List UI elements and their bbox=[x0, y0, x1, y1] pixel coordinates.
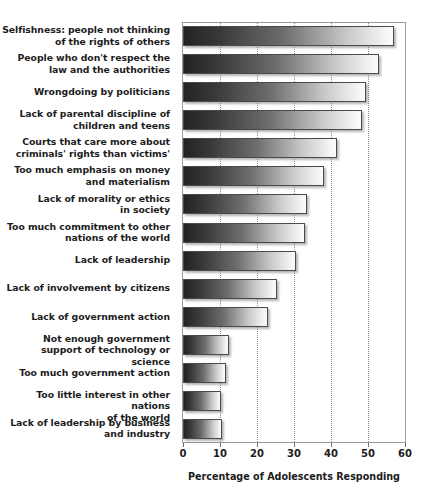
bars-layer bbox=[182, 22, 406, 443]
category-label: Too much commitment to othernations of t… bbox=[0, 221, 170, 244]
bar bbox=[183, 279, 277, 299]
category-label-line: Lack of parental discipline of bbox=[0, 108, 170, 119]
bar bbox=[183, 307, 268, 327]
x-tick-50 bbox=[368, 443, 369, 447]
x-tick-label-0: 0 bbox=[180, 448, 187, 459]
category-label: Lack of parental discipline ofchildren a… bbox=[0, 108, 170, 131]
x-tick-60 bbox=[405, 443, 406, 447]
category-label-line: and industry bbox=[0, 428, 170, 439]
category-label-line: support of technology or science bbox=[0, 344, 170, 367]
x-tick-label-20: 20 bbox=[250, 448, 264, 459]
category-label: Lack of leadership by businessand indust… bbox=[0, 417, 170, 440]
category-label-line: Courts that care more about bbox=[0, 136, 170, 147]
category-label-line: children and teens bbox=[0, 120, 170, 131]
category-label: Too much emphasis on moneyand materialis… bbox=[0, 164, 170, 187]
x-tick-40 bbox=[331, 443, 332, 447]
category-label-line: Lack of involvement by citizens bbox=[0, 282, 170, 293]
category-label-line: Too much emphasis on money bbox=[0, 164, 170, 175]
category-label-line: Lack of government action bbox=[0, 311, 170, 322]
bar bbox=[183, 166, 324, 186]
bar bbox=[183, 54, 379, 74]
bar bbox=[183, 26, 394, 46]
category-label-line: law and the authorities bbox=[0, 64, 170, 75]
category-label-line: Too little interest in other nations bbox=[0, 389, 170, 412]
x-axis-tick-labels: 0102030405060 bbox=[182, 448, 406, 464]
category-label-line: Too much commitment to other bbox=[0, 221, 170, 232]
category-label: Courts that care more aboutcriminals' ri… bbox=[0, 136, 170, 159]
bar bbox=[183, 82, 366, 102]
category-label: Lack of leadership bbox=[0, 254, 170, 265]
x-tick-30 bbox=[294, 443, 295, 447]
x-tick-label-30: 30 bbox=[287, 448, 301, 459]
category-label: Lack of involvement by citizens bbox=[0, 282, 170, 293]
category-label: Not enough governmentsupport of technolo… bbox=[0, 333, 170, 367]
category-label-line: Lack of morality or ethics bbox=[0, 193, 170, 204]
category-label-line: criminals' rights than victims' bbox=[0, 148, 170, 159]
bar bbox=[183, 194, 307, 214]
bar bbox=[183, 419, 222, 439]
x-axis-title: Percentage of Adolescents Responding bbox=[182, 471, 406, 482]
x-tick-0 bbox=[183, 443, 184, 447]
x-tick-label-40: 40 bbox=[324, 448, 338, 459]
category-label: Selfishness: people not thinkingof the r… bbox=[0, 24, 170, 47]
category-label-line: Wrongdoing by politicians bbox=[0, 86, 170, 97]
category-label: Too much government action bbox=[0, 367, 170, 378]
category-label-line: Lack of leadership by business bbox=[0, 417, 170, 428]
category-label-line: nations of the world bbox=[0, 232, 170, 243]
category-label-line: Lack of leadership bbox=[0, 254, 170, 265]
category-label-line: of the rights of others bbox=[0, 36, 170, 47]
bar bbox=[183, 110, 362, 130]
category-label-line: Too much government action bbox=[0, 367, 170, 378]
x-tick-10 bbox=[220, 443, 221, 447]
x-tick-20 bbox=[257, 443, 258, 447]
bar bbox=[183, 335, 229, 355]
x-tick-label-60: 60 bbox=[398, 448, 412, 459]
category-label-line: People who don't respect the bbox=[0, 52, 170, 63]
bar bbox=[183, 363, 226, 383]
bar bbox=[183, 251, 296, 271]
category-label: Lack of morality or ethicsin society bbox=[0, 193, 170, 216]
bar bbox=[183, 223, 305, 243]
bar-chart: Selfishness: people not thinkingof the r… bbox=[0, 0, 428, 503]
bar bbox=[183, 138, 337, 158]
category-label-line: Selfishness: people not thinking bbox=[0, 24, 170, 35]
category-label: People who don't respect thelaw and the … bbox=[0, 52, 170, 75]
category-label-line: Not enough government bbox=[0, 333, 170, 344]
category-label: Wrongdoing by politicians bbox=[0, 86, 170, 97]
x-tick-label-10: 10 bbox=[213, 448, 227, 459]
category-label-line: in society bbox=[0, 204, 170, 215]
x-tick-label-50: 50 bbox=[361, 448, 375, 459]
category-label-line: and materialism bbox=[0, 176, 170, 187]
category-labels: Selfishness: people not thinkingof the r… bbox=[0, 22, 176, 442]
category-label: Lack of government action bbox=[0, 311, 170, 322]
bar bbox=[183, 391, 221, 411]
